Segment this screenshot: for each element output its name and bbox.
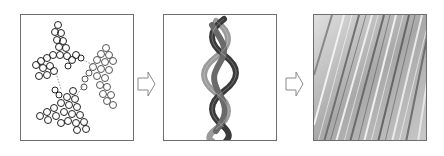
process-arrow-1 [137, 70, 157, 98]
process-arrow-2 [285, 70, 305, 98]
fibrous-texture-micrograph [314, 15, 427, 141]
right-arrow-icon [137, 70, 157, 98]
right-arrow-icon [285, 70, 305, 98]
triple-helix-panel [163, 14, 277, 141]
molecule-cluster-illustration [21, 15, 134, 141]
molecular-structure-panel [20, 14, 134, 141]
triple-helix-illustration [164, 15, 277, 141]
fiber-micrograph-panel [313, 14, 427, 141]
